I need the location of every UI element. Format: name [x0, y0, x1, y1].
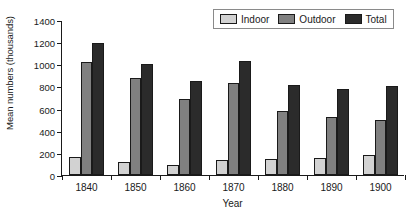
bar-outdoor-1870 — [228, 83, 240, 175]
x-tick-mark — [160, 175, 161, 180]
bar-outdoor-1900 — [375, 120, 387, 175]
bar-chart-figure: Mean numbers (thousands) 020040060080010… — [0, 0, 415, 218]
y-tick-mark — [57, 132, 62, 133]
y-tick-mark — [57, 43, 62, 44]
plot-area: 0200400600800100012001400 18401850186018… — [61, 21, 404, 176]
y-tick-mark — [57, 154, 62, 155]
bar-outdoor-1840 — [81, 62, 93, 175]
legend-swatch-indoor — [220, 14, 237, 24]
x-tick-mark — [258, 175, 259, 180]
x-tick-label: 1900 — [369, 182, 391, 193]
bar-outdoor-1850 — [130, 78, 142, 175]
y-tick-label: 1000 — [15, 60, 55, 71]
legend-item-total: Total — [345, 14, 387, 25]
bar-total-1860 — [190, 81, 202, 175]
y-tick-mark — [57, 65, 62, 66]
x-tick-label: 1890 — [320, 182, 342, 193]
y-tick-label: 400 — [15, 126, 55, 137]
bar-indoor-1890 — [314, 158, 326, 175]
bar-outdoor-1890 — [326, 117, 338, 175]
x-tick-label: 1880 — [271, 182, 293, 193]
bar-outdoor-1860 — [179, 99, 191, 175]
y-tick-mark — [57, 87, 62, 88]
x-tick-mark — [307, 175, 308, 180]
legend-swatch-total — [345, 14, 362, 24]
legend-label: Total — [366, 14, 387, 25]
y-tick-label: 600 — [15, 104, 55, 115]
y-tick-label: 1200 — [15, 38, 55, 49]
y-tick-label: 1400 — [15, 16, 55, 27]
y-tick-mark — [57, 110, 62, 111]
bar-total-1900 — [386, 86, 398, 175]
x-tick-mark — [209, 175, 210, 180]
legend-item-outdoor: Outdoor — [278, 14, 335, 25]
chart-legend: IndoorOutdoorTotal — [213, 9, 394, 29]
bar-indoor-1860 — [167, 165, 179, 175]
legend-item-indoor: Indoor — [220, 14, 269, 25]
y-tick-mark — [57, 21, 62, 22]
legend-swatch-outdoor — [278, 14, 295, 24]
x-tick-label: 1840 — [75, 182, 97, 193]
bar-indoor-1850 — [118, 162, 130, 175]
x-tick-label: 1850 — [124, 182, 146, 193]
bar-indoor-1900 — [363, 155, 375, 175]
legend-label: Outdoor — [299, 14, 335, 25]
bar-total-1880 — [288, 85, 300, 175]
bar-indoor-1840 — [69, 157, 81, 175]
x-tick-mark — [405, 175, 406, 180]
legend-label: Indoor — [241, 14, 269, 25]
bar-total-1840 — [92, 43, 104, 175]
bar-outdoor-1880 — [277, 111, 289, 175]
bar-total-1890 — [337, 89, 349, 175]
x-tick-label: 1870 — [222, 182, 244, 193]
x-tick-mark — [111, 175, 112, 180]
y-tick-label: 200 — [15, 148, 55, 159]
bar-total-1850 — [141, 64, 153, 175]
bar-total-1870 — [239, 61, 251, 175]
x-tick-label: 1860 — [173, 182, 195, 193]
x-tick-mark — [356, 175, 357, 180]
x-axis-title: Year — [61, 198, 404, 209]
y-tick-label: 800 — [15, 82, 55, 93]
y-tick-label: 0 — [15, 171, 55, 182]
bar-indoor-1880 — [265, 159, 277, 175]
x-tick-mark — [62, 175, 63, 180]
bar-indoor-1870 — [216, 160, 228, 175]
